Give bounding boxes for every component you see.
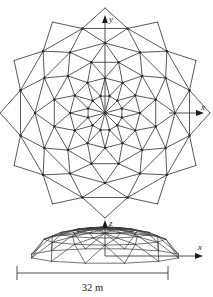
dome-figure: y x z x 32 m — [0, 0, 213, 297]
span-dimension-label: 32 m — [82, 282, 103, 293]
plan-y-axis — [102, 15, 108, 113]
elevation-x-axis-label: x — [197, 242, 202, 252]
span-dimension-line — [17, 266, 168, 280]
figure-canvas: y x z x 32 m — [0, 0, 213, 297]
elevation-z-axis-label: z — [108, 218, 113, 228]
plan-x-axis-label: x — [200, 102, 205, 112]
plan-y-axis-label: y — [108, 14, 113, 24]
